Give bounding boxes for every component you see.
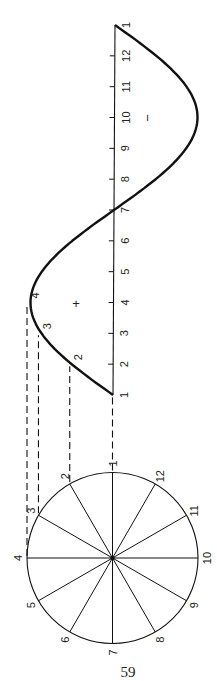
axis-tick-label: 6 [119, 238, 131, 244]
negative-half-sign: − [140, 114, 155, 122]
circle-point-label: 4 [12, 555, 24, 561]
axis-tick-label: 10 [120, 111, 132, 123]
circle-point-label: 7 [107, 649, 119, 655]
circle-point-label: 8 [154, 637, 166, 643]
curve-point-label: 4 [29, 292, 41, 298]
circle-point-label: 6 [59, 637, 71, 643]
axis-tick-label: 1 [118, 392, 130, 398]
circle-spokes [27, 473, 198, 644]
circle-spoke [113, 558, 187, 601]
circle-spoke [113, 558, 156, 632]
axis-tick-label: 11 [120, 81, 132, 92]
axis-tick-label: 3 [118, 330, 130, 336]
circle-point-label: 10 [201, 552, 213, 564]
circle-spoke [38, 515, 112, 558]
circle-point-label: 11 [188, 505, 200, 516]
axis-tick-label: 1 [120, 22, 132, 28]
circle-point-label: 9 [188, 602, 200, 608]
circle-spoke [113, 484, 156, 558]
sine-curve [31, 25, 198, 395]
circle-point-label: 5 [25, 602, 37, 608]
curve-point-label: 2 [72, 354, 84, 360]
axis-tick-label: 2 [118, 361, 130, 367]
axis-tick-label: 8 [119, 176, 131, 182]
circle-spoke [70, 484, 113, 558]
axis-tick-label: 4 [119, 299, 131, 305]
circle-spoke [38, 558, 112, 601]
axis-tick-label: 7 [119, 207, 131, 213]
positive-half-sign: + [72, 296, 80, 311]
axis-tick-label: 5 [119, 269, 131, 275]
sine-wave-construction-diagram: 123456789101112 1234567891011121 234 + −… [0, 0, 217, 681]
circle-point-label: 12 [154, 470, 166, 482]
axis-tick-label: 12 [120, 50, 132, 62]
page-number: 59 [121, 664, 136, 680]
wave-axis-labels: 1234567891011121 [118, 22, 132, 398]
curve-point-label: 3 [41, 323, 53, 329]
sine-curve-path [31, 25, 198, 395]
circle-spoke [70, 558, 113, 632]
circle-spoke [113, 515, 187, 558]
axis-tick-label: 9 [119, 145, 131, 151]
projection-dashed-lines [27, 305, 113, 557]
